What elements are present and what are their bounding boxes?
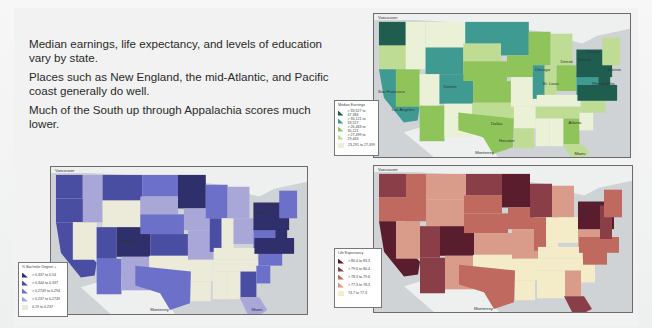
svg-text:Miami: Miami: [251, 307, 262, 312]
legend-swatch: [338, 111, 343, 116]
legend-swatch: [22, 289, 28, 294]
svg-text:Chicago: Chicago: [535, 67, 551, 72]
svg-text:Toronto: Toronto: [254, 210, 269, 215]
svg-text:Denver: Denver: [446, 237, 460, 242]
svg-text:Monterrey: Monterrey: [150, 307, 170, 312]
bullet-1: Median earnings, life expectancy, and le…: [29, 37, 329, 65]
legend-swatch: [338, 127, 343, 132]
svg-text:Detroit: Detroit: [561, 59, 574, 64]
life-expectancy-map: Vancouver Denver Monterrey Toronto Ottaw…: [373, 165, 633, 313]
svg-text:Philadelphia: Philadelphia: [592, 81, 615, 86]
svg-text:Ottawa: Ottawa: [263, 202, 277, 207]
median-earnings-map: Vancouver San Francisco Los Angeles Denv…: [373, 13, 631, 158]
education-map: Vancouver Denver Monterrey Toronto Ottaw…: [50, 166, 308, 315]
legend-swatch: [338, 267, 344, 272]
bullet-list: Median earnings, life expectancy, and le…: [29, 37, 329, 136]
svg-text:Monterrey: Monterrey: [474, 306, 494, 311]
legend-title: % Bachelor Degree +: [22, 265, 64, 269]
legend-swatch: [338, 143, 344, 148]
us-states-life-expectancy: Vancouver Denver Monterrey Toronto Ottaw…: [374, 166, 632, 312]
slide: Median earnings, life expectancy, and le…: [0, 0, 652, 328]
svg-text:Dallas: Dallas: [491, 121, 503, 126]
education-legend: % Bachelor Degree + > 0.337 to 0.54 > 0.…: [18, 262, 68, 317]
svg-text:Monterrey: Monterrey: [475, 150, 495, 155]
us-states-education: Vancouver Denver Monterrey Toronto Ottaw…: [51, 167, 307, 314]
svg-text:Los Angeles: Los Angeles: [392, 107, 415, 112]
city-label-vancouver: Vancouver: [378, 15, 398, 20]
svg-text:St. Louis: St. Louis: [543, 81, 559, 86]
legend-swatch: [22, 281, 28, 286]
life-expectancy-legend: Life Expectancy > 80.4 to 83.3 > 79.6 to…: [334, 248, 382, 308]
svg-text:Toronto: Toronto: [577, 57, 592, 62]
legend-swatch: [338, 135, 343, 140]
legend-swatch: [22, 297, 28, 302]
legend-title: Life Expectancy: [338, 251, 378, 255]
svg-text:Houston: Houston: [499, 138, 515, 143]
us-states-earnings: Vancouver San Francisco Los Angeles Denv…: [374, 14, 630, 157]
bullet-3: Much of the South up through Appalachia …: [29, 103, 329, 131]
legend-swatch: [338, 283, 344, 288]
svg-text:Miami: Miami: [574, 151, 585, 156]
legend-swatch: [22, 305, 28, 310]
median-earnings-legend: Median Earnings > 33,527 to 47,384 > 30,…: [334, 100, 379, 156]
svg-text:San Francisco: San Francisco: [378, 89, 405, 94]
svg-text:Vancouver: Vancouver: [55, 168, 75, 173]
legend-swatch: [22, 273, 28, 278]
svg-text:Ottawa: Ottawa: [586, 49, 600, 54]
legend-swatch: [338, 275, 344, 280]
svg-text:Atlanta: Atlanta: [568, 120, 582, 125]
svg-text:Toronto: Toronto: [579, 209, 594, 214]
legend-title: Median Earnings: [338, 103, 375, 107]
legend-swatch: [338, 291, 344, 296]
svg-text:Vancouver: Vancouver: [378, 167, 398, 172]
legend-swatch: [338, 119, 343, 124]
svg-text:Denver: Denver: [120, 238, 134, 243]
svg-text:Denver: Denver: [443, 84, 457, 89]
legend-swatch: [338, 259, 344, 264]
svg-text:Boston: Boston: [608, 67, 622, 72]
bullet-2: Places such as New England, the mid-Atla…: [29, 70, 329, 98]
svg-text:Ottawa: Ottawa: [588, 201, 602, 206]
